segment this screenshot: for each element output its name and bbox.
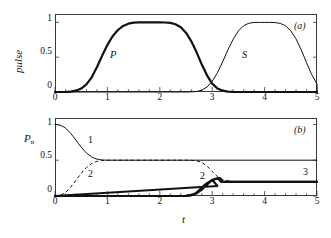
panel-a-xtick-4: 4 <box>258 92 272 102</box>
panel-a-xtick-3: 3 <box>205 92 219 102</box>
panel-b: Pn 1 0.5 0 0 1 2 3 4 5 t <box>0 110 331 238</box>
panel-a-ylabel-text: pulse <box>12 50 24 73</box>
panel-b-ytick-0: 0 <box>34 184 52 194</box>
panel-b-ylabel: Pn <box>24 132 34 144</box>
panel-a: pulse 1 0.5 0 0 1 2 3 4 5 <box>0 0 331 110</box>
panel-b-plot <box>55 118 317 196</box>
panel-b-label-2-left: 2 <box>88 168 93 179</box>
panel-b-xtick-5: 5 <box>310 196 324 206</box>
panel-a-xtick-2: 2 <box>153 92 167 102</box>
panel-b-xtick-3: 3 <box>205 196 219 206</box>
figure-root: pulse 1 0.5 0 0 1 2 3 4 5 <box>0 0 331 238</box>
panel-b-xtick-1: 1 <box>100 196 114 206</box>
panel-b-xlabel: t <box>182 213 185 225</box>
curve-population-1 <box>55 125 317 161</box>
panel-b-ylabel-sub: n <box>31 138 35 146</box>
panel-b-xtick-2: 2 <box>153 196 167 206</box>
panel-a-ylabel: pulse <box>12 50 24 73</box>
curve-population-3-tail <box>212 178 317 182</box>
panel-a-ytick-0_5: 0.5 <box>26 46 52 56</box>
curve-population-2 <box>55 160 317 196</box>
panel-a-label-S: S <box>242 49 247 60</box>
panel-b-label-3: 3 <box>303 166 308 177</box>
panel-a-plot <box>55 14 317 92</box>
panel-b-ytick-0_5: 0.5 <box>26 150 52 160</box>
curve-pump-P <box>55 22 317 92</box>
panel-b-label-2-right: 2 <box>200 170 205 181</box>
panel-a-xtick-1: 1 <box>100 92 114 102</box>
panel-b-label-1: 1 <box>88 134 93 145</box>
panel-b-ylabel-main: P <box>24 132 31 144</box>
panel-a-xtick-0: 0 <box>48 92 62 102</box>
panel-a-tag: (a) <box>294 20 306 31</box>
panel-a-ytick-0: 0 <box>34 80 52 90</box>
panel-b-ytick-1: 1 <box>34 117 52 127</box>
panel-b-xtick-0: 0 <box>48 196 62 206</box>
panel-b-tag: (b) <box>294 124 306 135</box>
panel-a-ytick-1: 1 <box>34 13 52 23</box>
panel-a-label-P: P <box>110 49 116 60</box>
panel-a-xtick-5: 5 <box>310 92 324 102</box>
panel-b-xtick-4: 4 <box>258 196 272 206</box>
